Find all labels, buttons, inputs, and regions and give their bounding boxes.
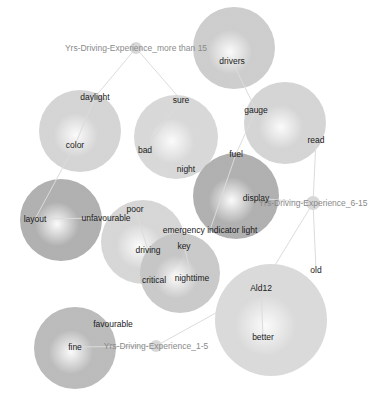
word-node-bad[interactable]: bad xyxy=(138,145,152,155)
hub-node[interactable]: Yrs-Driving-Experience_more than 15 xyxy=(65,42,207,54)
word-node-key[interactable]: key xyxy=(177,241,191,251)
word-node-daylight[interactable]: daylight xyxy=(80,92,110,102)
hub-node[interactable]: Yrs-Driving-Experience_1-5 xyxy=(104,340,209,352)
bubble-network-diagram: Yrs-Driving-Experience_more than 15Yrs-D… xyxy=(0,0,388,413)
word-node-ald12[interactable]: Ald12 xyxy=(250,283,272,293)
word-node-critical[interactable]: critical xyxy=(142,275,166,285)
edge-hub_more_than_15-w_sure xyxy=(136,48,181,100)
word-node-unfavourable[interactable]: unfavourable xyxy=(81,213,130,223)
word-node-fuel[interactable]: fuel xyxy=(229,149,243,159)
word-node-drivers[interactable]: drivers xyxy=(219,56,245,66)
word-node-better[interactable]: better xyxy=(252,332,274,342)
word-node-layout[interactable]: layout xyxy=(24,214,47,224)
word-node-nighttime[interactable]: nighttime xyxy=(175,273,210,283)
word-node-read[interactable]: read xyxy=(307,135,324,145)
bubble-daylight[interactable] xyxy=(39,90,121,172)
hub-label: Yrs-Driving-Experience_6-15 xyxy=(258,198,367,208)
word-node-emergency[interactable]: emergency indicator light xyxy=(163,225,258,235)
word-node-poor[interactable]: poor xyxy=(126,204,143,214)
bubble-ald12[interactable] xyxy=(215,264,327,376)
word-node-night[interactable]: night xyxy=(177,164,196,174)
word-node-gauge[interactable]: gauge xyxy=(244,105,268,115)
hub-label: Yrs-Driving-Experience_1-5 xyxy=(104,341,209,351)
edge-hub_6_15-w_old xyxy=(313,203,316,270)
word-node-driving[interactable]: driving xyxy=(135,245,160,255)
hub-node[interactable]: Yrs-Driving-Experience_6-15 xyxy=(258,196,367,210)
word-node-sure[interactable]: sure xyxy=(173,95,190,105)
bubble-gauge[interactable] xyxy=(244,82,326,164)
word-node-color[interactable]: color xyxy=(66,140,85,150)
word-node-fine[interactable]: fine xyxy=(68,342,82,352)
word-node-display[interactable]: display xyxy=(243,193,270,203)
word-node-favourable[interactable]: favourable xyxy=(93,319,133,329)
edge-hub_more_than_15-w_daylight xyxy=(95,48,136,97)
hub-label: Yrs-Driving-Experience_more than 15 xyxy=(65,43,207,53)
word-node-old[interactable]: old xyxy=(310,265,322,275)
